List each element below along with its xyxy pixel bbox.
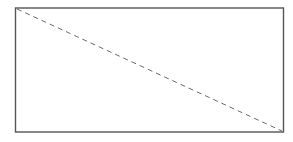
diagram-canvas bbox=[0, 0, 293, 142]
dashed-diagonal-line bbox=[17, 9, 282, 131]
